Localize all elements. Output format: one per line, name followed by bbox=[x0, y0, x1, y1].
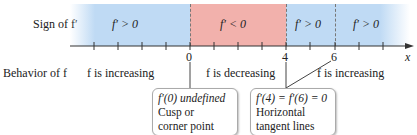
callout-horizontal-tangent: f′(4) = f′(6) = 0 Horizontal tangent lin… bbox=[250, 88, 336, 135]
axis-variable: x bbox=[405, 50, 410, 65]
callout-line: f′(4) = f′(6) = 0 bbox=[256, 91, 330, 105]
behavior-label-1: f is increasing bbox=[87, 66, 154, 81]
behavior-row-label: Behavior of f bbox=[3, 66, 67, 81]
callout-line: f′(0) undefined bbox=[158, 91, 232, 105]
axis-label-0: 0 bbox=[186, 50, 192, 65]
behavior-label-2: f is decreasing bbox=[206, 66, 275, 81]
axis-label-6: 6 bbox=[331, 50, 337, 65]
axis-label-4: 4 bbox=[282, 50, 288, 65]
callout-line: Cusp or bbox=[158, 105, 232, 119]
callout-line: tangent lines bbox=[256, 119, 330, 133]
behavior-label-3: f is increasing bbox=[317, 66, 384, 81]
callout-line: corner point bbox=[158, 119, 232, 133]
callout-line: Horizontal bbox=[256, 105, 330, 119]
callout-derivative-undefined: f′(0) undefined Cusp or corner point bbox=[152, 88, 238, 135]
